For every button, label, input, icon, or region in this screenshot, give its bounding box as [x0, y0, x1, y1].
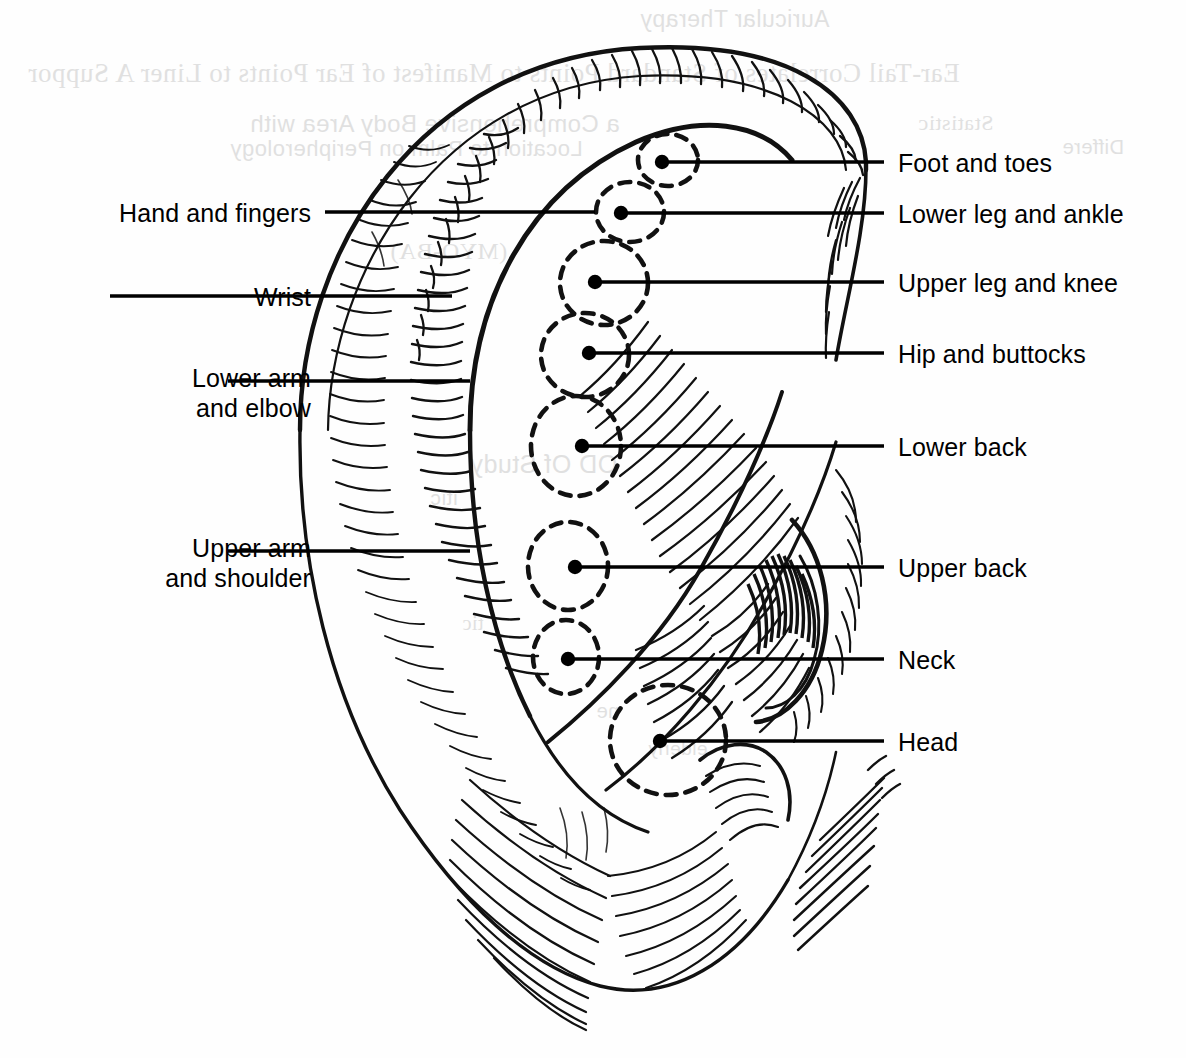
label-hand-and-fingers: Hand and fingers [119, 198, 311, 228]
label-lower-leg-and-ankle: Lower leg and ankle [898, 199, 1124, 229]
leader-dot-upper-back [570, 562, 581, 573]
label-foot-and-toes: Foot and toes [898, 148, 1052, 178]
leader-dot-hip-and-buttocks [584, 348, 595, 359]
leader-dot-neck [563, 654, 574, 665]
label-head: Head [898, 727, 958, 757]
label-wrist: Wrist [254, 282, 311, 312]
label-lower-back: Lower back [898, 432, 1027, 462]
leader-dot-lower-back [577, 441, 588, 452]
leader-dot-upper-leg-and-knee [590, 277, 601, 288]
label-upper-back: Upper back [898, 553, 1027, 583]
label-upper-arm-shoulder: Upper arm and shoulder [165, 533, 311, 593]
zone-circle-group [528, 134, 726, 795]
label-neck: Neck [898, 645, 955, 675]
label-lower-arm-elbow: Lower arm and elbow [192, 363, 311, 423]
leader-line-group [110, 157, 884, 747]
label-hip-and-buttocks: Hip and buttocks [898, 339, 1086, 369]
figure-page: Ear-Tail Correlates of Standard Points t… [0, 0, 1186, 1058]
leader-dot-foot-and-toes [657, 157, 668, 168]
leader-dot-head [655, 736, 666, 747]
label-upper-leg-and-knee: Upper leg and knee [898, 268, 1118, 298]
leader-dot-lower-leg-and-ankle [616, 208, 627, 219]
